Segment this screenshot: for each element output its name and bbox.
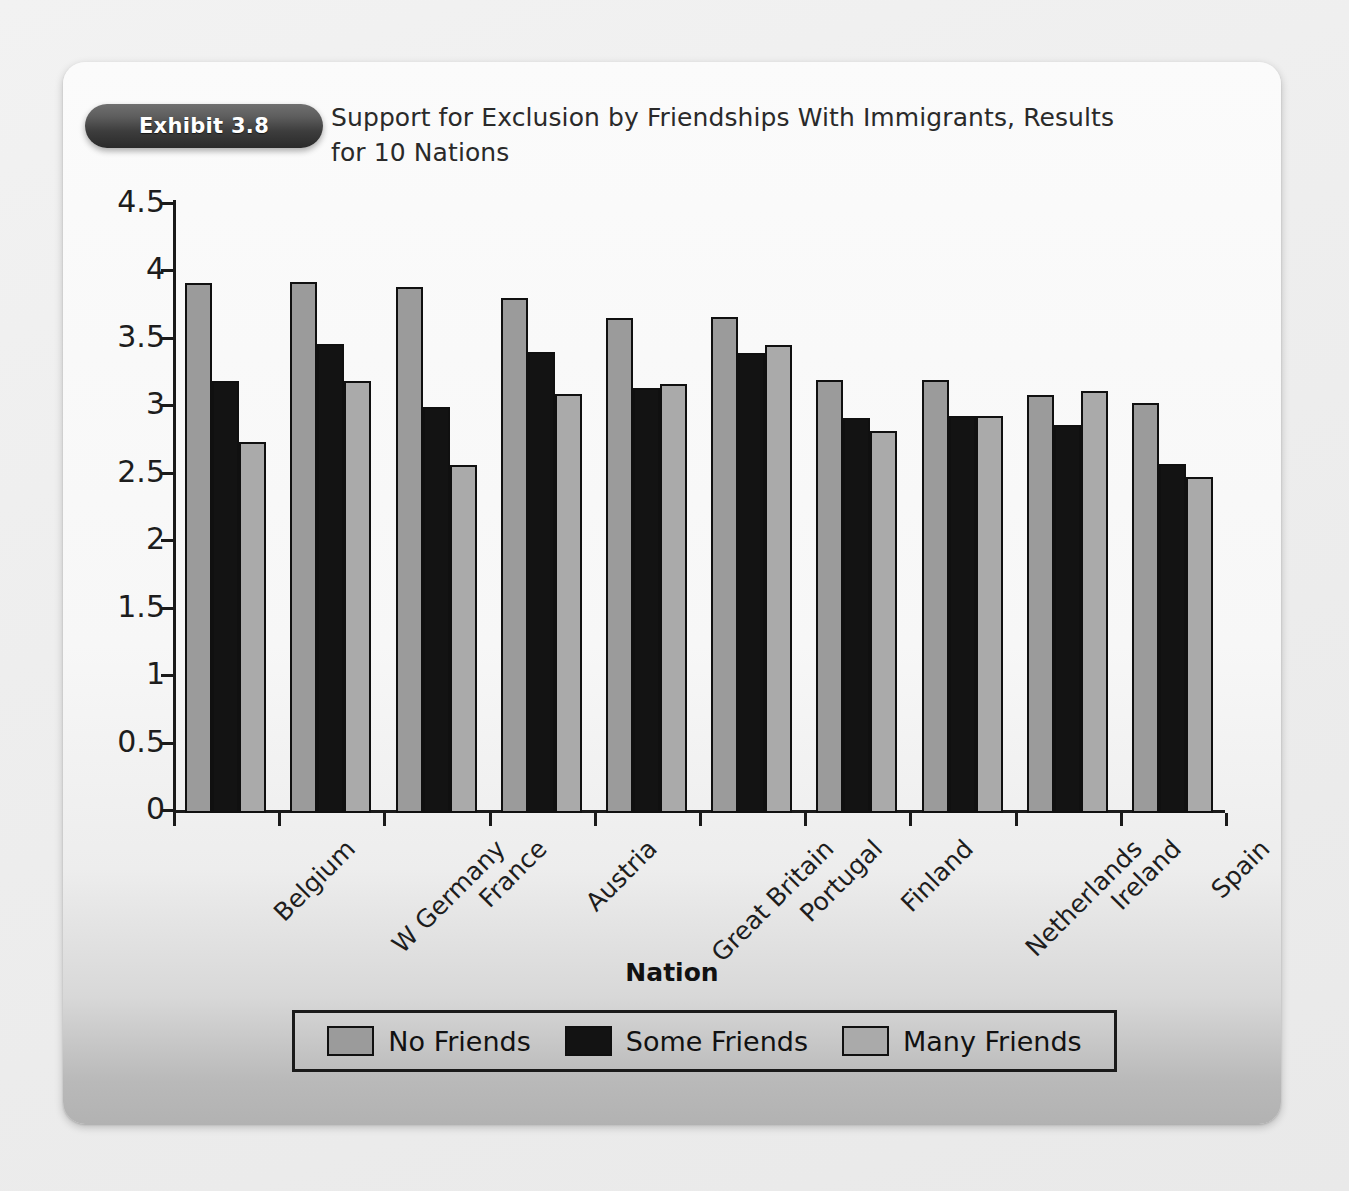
y-axis-tick-label: 3.5 (117, 319, 165, 354)
bar (738, 353, 765, 813)
bar (423, 407, 450, 813)
x-axis-title: Nation (63, 958, 1281, 987)
bar (1186, 477, 1213, 813)
chart-legend: No FriendsSome FriendsMany Friends (292, 1010, 1117, 1072)
bar (660, 384, 687, 813)
x-axis-tick-mark (489, 813, 492, 826)
bars-layer (173, 200, 1225, 813)
x-axis-category-label: Belgium (268, 834, 361, 927)
x-axis-tick-mark (278, 813, 281, 826)
bar (239, 442, 266, 813)
bar (949, 416, 976, 813)
bar (711, 317, 738, 813)
legend-item[interactable]: No Friends (327, 1026, 530, 1057)
y-axis-tick-label: 1.5 (117, 589, 165, 624)
x-axis-tick-mark (1225, 813, 1228, 826)
bar (633, 388, 660, 813)
bar (1159, 464, 1186, 813)
bar (317, 344, 344, 813)
x-axis-tick-mark (909, 813, 912, 826)
bar (555, 394, 582, 814)
legend-label: Many Friends (903, 1026, 1082, 1057)
x-axis-tick-mark (383, 813, 386, 826)
exhibit-card: Exhibit 3.8 Support for Exclusion by Fri… (63, 62, 1281, 1124)
bar (976, 416, 1003, 813)
bar (185, 283, 212, 813)
y-axis-tick-label: 0.5 (117, 724, 165, 759)
x-axis-category-label: Austria (580, 834, 663, 917)
bar (212, 381, 239, 813)
legend-label: No Friends (388, 1026, 530, 1057)
legend-swatch (842, 1026, 889, 1056)
bar (396, 287, 423, 813)
legend-swatch (327, 1026, 374, 1056)
bar (450, 465, 477, 813)
bar (816, 380, 843, 813)
bar (922, 380, 949, 813)
bar (290, 282, 317, 813)
bar (1027, 395, 1054, 813)
y-axis-tick-label: 2.5 (117, 454, 165, 489)
legend-item[interactable]: Some Friends (565, 1026, 808, 1057)
bar (1081, 391, 1108, 813)
x-axis-tick-mark (173, 813, 176, 826)
x-axis-tick-mark (699, 813, 702, 826)
chart-plot-area: 00.511.522.533.544.5 BelgiumW GermanyFra… (63, 62, 1281, 1124)
bar (606, 318, 633, 813)
x-axis-category-label: Finland (896, 834, 980, 918)
x-axis-tick-mark (804, 813, 807, 826)
legend-swatch (565, 1026, 612, 1056)
legend-item[interactable]: Many Friends (842, 1026, 1082, 1057)
bar (528, 352, 555, 813)
x-axis-category-label: Spain (1205, 834, 1275, 904)
bar (501, 298, 528, 813)
x-axis-tick-mark (1120, 813, 1123, 826)
bar (1054, 425, 1081, 813)
bar (344, 381, 371, 813)
bar (765, 345, 792, 813)
x-axis-tick-mark (1015, 813, 1018, 826)
x-axis-tick-mark (594, 813, 597, 826)
legend-label: Some Friends (626, 1026, 808, 1057)
bar (843, 418, 870, 813)
bar (870, 431, 897, 813)
bar (1132, 403, 1159, 813)
y-axis-tick-label: 4.5 (117, 184, 165, 219)
